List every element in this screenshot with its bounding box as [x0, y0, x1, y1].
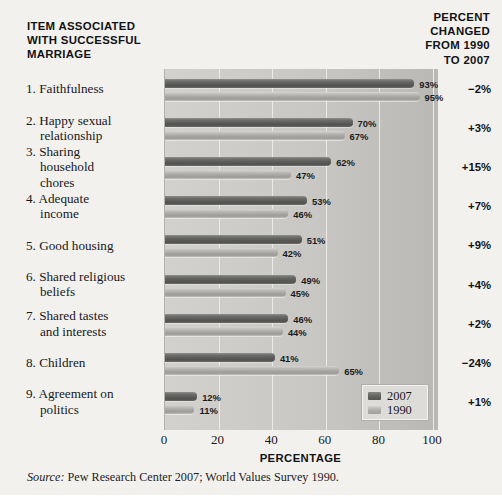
category-label-line: income: [40, 206, 162, 222]
category-label-line: 4. Adequate: [26, 191, 162, 207]
category-label-7: 7. Shared tastesand interests: [26, 308, 162, 339]
bar-1990-row-7: [165, 327, 283, 336]
category-label-line: 7. Shared tastes: [26, 308, 162, 324]
category-label-line: beliefs: [40, 284, 162, 300]
bar-2007-row-4: [165, 196, 307, 205]
percent-change-column: −2%+3%+15%+7%+9%+4%+2%−24%+1%: [437, 69, 502, 430]
percent-change-row-6: +4%: [468, 279, 491, 291]
bar-2007-row-1: [165, 79, 414, 88]
bar-2007-row-7: [165, 314, 288, 323]
category-label-line: 5. Good housing: [26, 238, 162, 254]
chart-legend: 20071990: [362, 385, 428, 420]
category-label-line: 1. Faithfulness: [26, 81, 162, 97]
bar-value-1990-row-6: 45%: [291, 289, 310, 298]
bar-value-2007-row-6: 49%: [301, 276, 320, 285]
category-label-line: 9. Agreement on: [26, 386, 162, 402]
bar-value-2007-row-8: 41%: [280, 354, 299, 363]
bar-value-1990-row-9: 11%: [199, 406, 217, 415]
percent-change-row-9: +1%: [468, 396, 491, 408]
bar-value-1990-row-3: 47%: [296, 171, 315, 180]
bar-value-1990-row-7: 44%: [288, 328, 307, 337]
x-tick-20: 20: [211, 432, 224, 448]
bar-2007-row-2: [165, 118, 353, 127]
category-label-column: 1. Faithfulness2. Happy sexualrelationsh…: [0, 69, 164, 430]
bar-value-1990-row-8: 65%: [344, 367, 363, 376]
source-note: Source: Pew Research Center 2007; World …: [27, 470, 339, 485]
bar-value-2007-row-7: 46%: [293, 315, 312, 324]
bar-value-2007-row-1: 93%: [419, 80, 438, 89]
bar-2007-row-6: [165, 275, 296, 284]
category-label-2: 2. Happy sexualrelationship: [26, 113, 162, 144]
category-label-line: 8. Children: [26, 355, 162, 371]
category-label-1: 1. Faithfulness: [26, 81, 162, 97]
legend-item-1990: 1990: [368, 403, 427, 417]
bar-1990-row-8: [165, 366, 339, 375]
percent-change-row-1: −2%: [468, 83, 491, 95]
bar-2007-row-8: [165, 353, 275, 362]
legend-item-2007: 2007: [368, 389, 427, 403]
bar-value-2007-row-2: 70%: [358, 119, 377, 128]
category-label-9: 9. Agreement onpolitics: [26, 386, 162, 417]
category-label-line: 2. Happy sexual: [26, 113, 162, 129]
legend-label-2007: 2007: [387, 390, 412, 403]
plot-area: 93%95%70%67%62%47%53%46%51%42%49%45%46%4…: [164, 69, 438, 430]
percent-change-row-7: +2%: [468, 318, 491, 330]
x-tick-0: 0: [161, 432, 168, 448]
percent-change-row-5: +9%: [468, 239, 491, 251]
bar-2007-row-3: [165, 157, 331, 166]
percent-change-row-4: +7%: [468, 200, 491, 212]
bar-2007-row-5: [165, 235, 302, 244]
bar-value-1990-row-2: 67%: [350, 132, 369, 141]
bar-1990-row-9: [165, 405, 194, 414]
category-label-3: 3. Sharinghouseholdchores: [26, 144, 162, 191]
bottom-rule: [0, 495, 502, 501]
gridline-100: [433, 69, 434, 430]
category-label-4: 4. Adequateincome: [26, 191, 162, 222]
x-tick-60: 60: [318, 432, 331, 448]
legend-swatch-2007: [368, 392, 381, 400]
bar-value-1990-row-4: 46%: [293, 210, 312, 219]
bar-1990-row-1: [165, 92, 420, 101]
bar-1990-row-5: [165, 248, 278, 257]
legend-swatch-1990: [368, 406, 381, 414]
bar-value-2007-row-4: 53%: [312, 197, 331, 206]
category-label-line: 6. Shared religious: [26, 269, 162, 285]
category-label-line: 3. Sharing: [26, 144, 162, 160]
bar-1990-row-4: [165, 209, 288, 218]
source-text: Pew Research Center 2007; World Values S…: [64, 470, 338, 484]
bar-value-2007-row-5: 51%: [307, 236, 326, 245]
percent-change-row-3: +15%: [462, 161, 491, 173]
legend-label-1990: 1990: [387, 404, 412, 417]
percent-change-row-8: −24%: [462, 357, 491, 369]
bar-1990-row-2: [165, 131, 345, 140]
category-label-line: household: [40, 159, 162, 175]
bar-1990-row-3: [165, 170, 291, 179]
chart-figure: ITEM ASSOCIATEDWITH SUCCESSFULMARRIAGE P…: [0, 0, 502, 501]
column-header-items: ITEM ASSOCIATEDWITH SUCCESSFULMARRIAGE: [27, 19, 227, 62]
x-axis-ticks: 020406080100: [164, 432, 437, 452]
bar-2007-row-9: [165, 392, 197, 401]
bar-1990-row-6: [165, 288, 286, 297]
source-label: Source:: [27, 470, 64, 484]
category-label-line: chores: [40, 175, 162, 191]
category-label-5: 5. Good housing: [26, 238, 162, 254]
category-label-line: and interests: [40, 324, 162, 340]
category-label-8: 8. Children: [26, 355, 162, 371]
category-label-6: 6. Shared religiousbeliefs: [26, 269, 162, 300]
column-header-percent-changed: PERCENTCHANGEDFROM 1990TO 2007: [360, 10, 490, 67]
x-tick-80: 80: [372, 432, 385, 448]
percent-change-row-2: +3%: [468, 122, 491, 134]
x-tick-40: 40: [265, 432, 278, 448]
x-tick-100: 100: [422, 432, 442, 448]
category-label-line: relationship: [40, 128, 162, 144]
bar-value-2007-row-9: 12%: [202, 393, 221, 402]
bar-value-2007-row-3: 62%: [336, 158, 355, 167]
gridline-80: [379, 69, 380, 430]
x-axis-title: PERCENTAGE: [164, 452, 437, 464]
bar-value-1990-row-5: 42%: [283, 249, 302, 258]
category-label-line: politics: [40, 402, 162, 418]
